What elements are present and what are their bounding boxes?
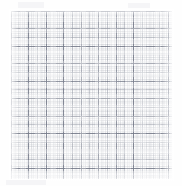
paper-tint-top-left [18, 2, 44, 8]
paper-sheet [0, 0, 182, 186]
paper-tint-bottom [6, 180, 46, 185]
grid-area [11, 11, 172, 179]
graph-paper-page [0, 0, 182, 186]
paper-tint-top-right [128, 3, 150, 8]
major-grid-lines [11, 11, 172, 179]
